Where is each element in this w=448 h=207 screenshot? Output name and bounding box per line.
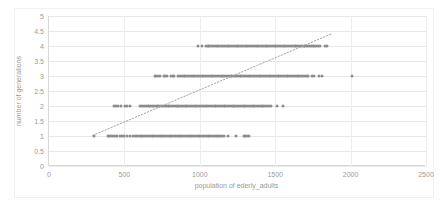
y-axis-tick-label: 0	[40, 163, 44, 170]
x-axis-tick-label: 500	[119, 171, 131, 178]
y-axis-tick-label: 2.5	[34, 88, 44, 95]
plot-area: 00.511.522.533.544.55 050010001500200025…	[48, 16, 425, 166]
y-axis-tick-label: 0.5	[34, 148, 44, 155]
y-axis-tick-label: 3	[40, 73, 44, 80]
x-axis-tick-label: 0	[47, 171, 51, 178]
x-axis-tick-label: 1000	[192, 171, 208, 178]
gridline-horizontal	[49, 166, 426, 167]
x-axis-tick-label: 1500	[267, 171, 283, 178]
x-axis-title: population of ederly_adults	[48, 182, 425, 189]
y-axis-tick-label: 5	[40, 13, 44, 20]
y-axis-tick-label: 4	[40, 43, 44, 50]
scatter-chart: number of generations population of eder…	[0, 0, 448, 207]
x-axis-tick-label: 2500	[418, 171, 434, 178]
x-axis-tick-label: 2000	[343, 171, 359, 178]
gridline-vertical	[426, 16, 427, 166]
y-axis-tick-label: 1.5	[34, 118, 44, 125]
y-axis-title: number of generations	[15, 56, 22, 126]
y-axis-tick-label: 1	[40, 133, 44, 140]
trendline	[49, 16, 426, 166]
y-axis-tick-label: 2	[40, 103, 44, 110]
y-axis-tick-label: 4.5	[34, 28, 44, 35]
y-axis-tick-label: 3.5	[34, 58, 44, 65]
